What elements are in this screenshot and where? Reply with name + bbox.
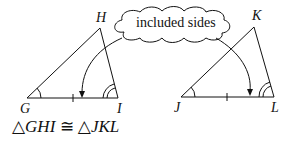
angle-mark-l-outer xyxy=(259,82,270,97)
angle-mark-i-outer xyxy=(103,84,114,98)
angle-mark-l-inner xyxy=(263,86,271,97)
triangle-ghi xyxy=(27,28,118,98)
caption-left: GHI xyxy=(25,117,55,136)
arrowhead-jl xyxy=(247,89,253,96)
vertex-label-h: H xyxy=(96,10,106,26)
congruent-symbol: ≅ xyxy=(60,117,74,136)
angle-mark-j xyxy=(191,87,195,97)
vertex-label-k: K xyxy=(252,8,261,24)
congruence-statement: △GHI ≅ △JKL xyxy=(12,116,119,137)
vertex-label-l: L xyxy=(271,100,279,116)
caption-right: JKL xyxy=(91,117,119,136)
vertex-label-i: I xyxy=(117,101,122,117)
arrow-to-gi xyxy=(82,38,122,93)
vertex-label-g: G xyxy=(20,101,30,117)
arrowhead-gi xyxy=(79,91,85,98)
angle-mark-i-inner xyxy=(107,88,115,98)
arrow-to-jl xyxy=(216,38,250,91)
triangle-symbol-icon: △ xyxy=(12,117,25,136)
callout-text: included sides xyxy=(136,15,216,31)
triangle-symbol-icon: △ xyxy=(78,117,91,136)
vertex-label-j: J xyxy=(174,100,180,116)
angle-mark-g xyxy=(37,88,41,98)
